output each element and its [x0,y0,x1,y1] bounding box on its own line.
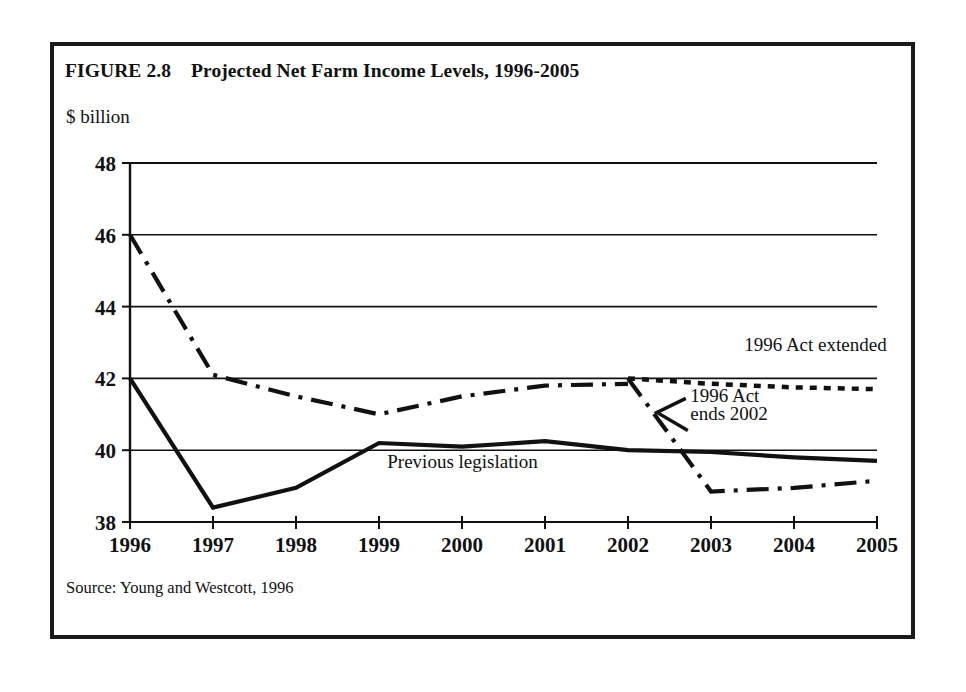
x-axis-tick-labels: 1996199719981999200020012002200320042005 [109,533,898,557]
y-tick-label-44: 44 [95,296,117,320]
x-tick-label-2001: 2001 [524,533,566,557]
x-tick-label-1997: 1997 [192,533,234,557]
x-tick-label-2003: 2003 [690,533,732,557]
annotation-label-ends-2002: ends 2002 [690,403,768,424]
x-tick-label-2002: 2002 [607,533,649,557]
y-tick-label-38: 38 [95,511,116,535]
x-tick-label-2000: 2000 [441,533,483,557]
x-tick-label-1998: 1998 [275,533,317,557]
y-tick-label-40: 40 [95,439,116,463]
net-farm-income-line-chart: 384042444648 199619971998199920002001200… [0,0,966,692]
y-tick-label-42: 42 [95,367,116,391]
annotation-label-1996-act-extended: 1996 Act extended [744,334,887,355]
y-axis-tick-labels: 384042444648 [95,152,117,535]
annotation-label-previous-legislation: Previous legislation [387,451,538,472]
x-tick-label-1996: 1996 [109,533,151,557]
x-tick-label-2004: 2004 [773,533,816,557]
x-tick-label-1999: 1999 [358,533,400,557]
y-tick-label-48: 48 [95,152,116,176]
y-tick-label-46: 46 [95,224,116,248]
x-tick-label-2005: 2005 [856,533,898,557]
series-line-1996-act-extended-seg1 [130,235,628,414]
